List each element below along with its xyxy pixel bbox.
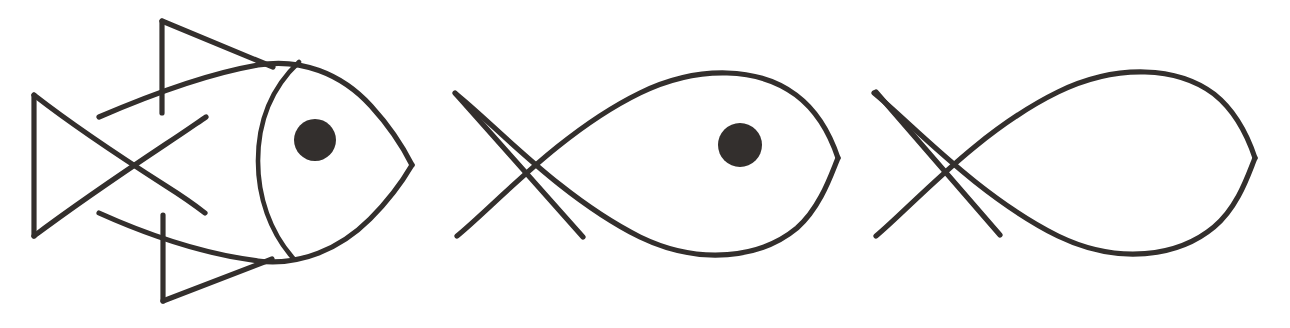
tail-stroke xyxy=(455,93,583,237)
body-outline-upper xyxy=(99,63,412,165)
drawing-canvas: Three stylized fish line drawings Sequen… xyxy=(0,0,1290,328)
body-outline-belly xyxy=(874,93,1255,254)
fish-detailed[interactable] xyxy=(34,21,412,301)
eye-dot xyxy=(294,119,336,161)
gill-curve xyxy=(258,62,299,258)
body-outline-belly xyxy=(456,94,838,255)
fish-with-eye[interactable] xyxy=(455,73,838,255)
fish-figure-svg xyxy=(0,0,1290,328)
tail-triangle-lower-stroke xyxy=(34,117,206,236)
fish-plain[interactable] xyxy=(874,72,1255,254)
ventral-fin-triangle-hypotenuse xyxy=(163,259,272,301)
tail-triangle-upper-stroke xyxy=(34,95,205,213)
body-outline-lower xyxy=(99,165,412,262)
body-outline-upper xyxy=(457,73,838,236)
dorsal-fin-triangle-hypotenuse xyxy=(162,21,273,67)
eye-dot xyxy=(718,123,762,167)
